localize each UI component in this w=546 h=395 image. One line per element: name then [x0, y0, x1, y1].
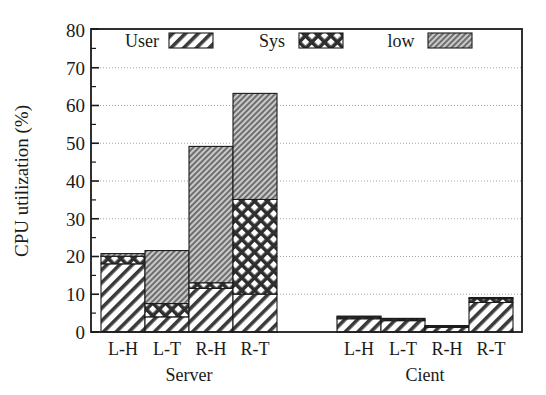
bar-seg-user: [101, 264, 145, 332]
y-axis-title: CPU utilization (%): [11, 105, 33, 257]
bar-seg-low: [145, 251, 189, 304]
bar-seg-low: [425, 326, 469, 327]
bar-seg-user: [381, 321, 425, 332]
bar-cient-R-H: [425, 326, 469, 332]
bar-seg-low: [381, 318, 425, 319]
xtick-label-cient-R-H: R-H: [432, 339, 463, 359]
bar-cient-L-T: [381, 318, 425, 332]
xtick-label-server-R-T: R-T: [241, 339, 270, 359]
xtick-label-cient-L-T: L-T: [389, 339, 417, 359]
bar-seg-user: [233, 294, 277, 332]
bar-seg-sys: [233, 199, 277, 294]
xtick-label-server-L-H: L-H: [108, 339, 138, 359]
legend-label-user: User: [125, 31, 159, 51]
chart-canvas: 0 10 20 30 40 50 60 70 80 CPU utilizatio…: [0, 0, 546, 395]
legend-swatch-low: [428, 33, 472, 48]
group-label-cient: Cient: [406, 365, 445, 385]
ytick-label-80: 80: [66, 20, 85, 41]
xtick-label-cient-R-T: R-T: [477, 339, 506, 359]
legend-swatch-sys: [299, 33, 343, 48]
bar-seg-low: [337, 316, 381, 317]
bar-seg-sys: [145, 304, 189, 317]
ytick-label-50: 50: [66, 133, 85, 154]
xtick-label-cient-L-H: L-H: [344, 339, 374, 359]
bar-cient-R-T: [469, 298, 513, 332]
legend-swatch-user: [169, 33, 213, 48]
bar-seg-low: [189, 146, 233, 282]
ytick-label-20: 20: [66, 246, 85, 267]
cpu-utilization-chart: 0 10 20 30 40 50 60 70 80 CPU utilizatio…: [0, 0, 546, 395]
xtick-label-server-L-T: L-T: [153, 339, 181, 359]
ytick-label-30: 30: [66, 209, 85, 230]
legend-label-sys: Sys: [259, 31, 285, 51]
bar-seg-sys: [189, 283, 233, 289]
ytick-label-10: 10: [66, 284, 85, 305]
bar-server-L-H: [101, 254, 145, 332]
xtick-label-server-R-H: R-H: [196, 339, 227, 359]
ytick-label-60: 60: [66, 95, 85, 116]
bar-server-R-H: [189, 146, 233, 332]
bar-seg-user: [337, 319, 381, 332]
legend-label-low: low: [388, 31, 415, 51]
ytick-label-70: 70: [66, 58, 85, 79]
bar-seg-low: [469, 298, 513, 299]
bar-seg-low: [233, 93, 277, 199]
group-label-server: Server: [166, 365, 213, 385]
bar-seg-sys: [469, 299, 513, 303]
y-axis-tick-labels: 0 10 20 30 40 50 60 70 80: [66, 20, 85, 343]
bar-cient-L-H: [337, 316, 381, 332]
ytick-label-0: 0: [76, 322, 86, 343]
ytick-label-40: 40: [66, 171, 85, 192]
bar-seg-low: [101, 254, 145, 257]
bar-server-L-T: [145, 251, 189, 332]
bar-seg-user: [469, 302, 513, 332]
bar-seg-user: [145, 317, 189, 332]
bar-seg-user: [189, 288, 233, 332]
bar-seg-sys: [101, 256, 145, 264]
bar-server-R-T: [233, 93, 277, 332]
